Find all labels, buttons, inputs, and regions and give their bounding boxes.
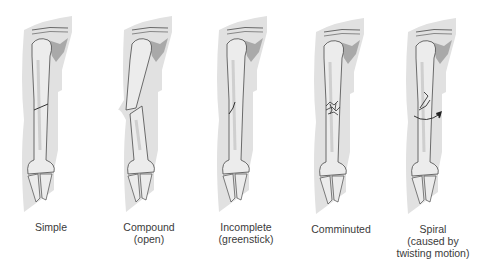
label-compound: Compound (open) [100,221,198,245]
humerus-compound-fracture-illustration [100,0,198,220]
label-spiral: Spiral (caused by twisting motion) [384,223,482,259]
panel-compound: Compound (open) [100,0,198,271]
panel-comminuted: Comminuted [292,0,390,271]
panel-incomplete: Incomplete (greenstick) [197,0,295,271]
fracture-types-figure: Simple Compound (open) [0,0,489,271]
panel-spiral: Spiral (caused by twisting motion) [384,0,482,271]
label-simple: Simple [2,221,100,233]
humerus-incomplete-fracture-illustration [197,0,295,220]
humerus-spiral-fracture-illustration [384,0,482,220]
label-comminuted: Comminuted [292,223,390,235]
label-incomplete: Incomplete (greenstick) [197,221,295,245]
humerus-simple-fracture-illustration [2,0,100,220]
panel-simple: Simple [2,0,100,271]
humerus-comminuted-fracture-illustration [292,0,390,220]
